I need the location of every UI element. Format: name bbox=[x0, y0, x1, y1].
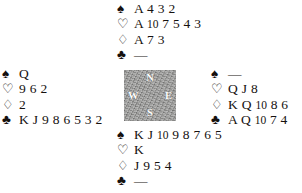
hand-west-clubs-cards: K J 9 8 6 5 3 2 bbox=[15, 112, 103, 127]
hand-south-hearts-cards: K bbox=[130, 142, 144, 157]
hand-west: ♠ Q ♡ 9 6 2 ♢ 2 ♣ K J 9 8 6 5 3 2 bbox=[2, 66, 103, 128]
hand-north-diamonds-cards: A 7 3 bbox=[130, 32, 165, 47]
compass-label-west: W bbox=[128, 90, 139, 101]
compass-label-east: E bbox=[165, 90, 172, 101]
hand-north: ♠ A 4 3 2 ♡ A 10 7 5 4 3 ♢ A 7 3 ♣ — bbox=[117, 1, 201, 63]
club-icon: ♣ bbox=[211, 112, 224, 127]
diamond-icon: ♢ bbox=[117, 32, 130, 47]
hand-east-diamonds-cards: K Q 10 8 6 bbox=[224, 97, 288, 113]
heart-icon: ♡ bbox=[117, 16, 130, 31]
hand-north-diamonds-row: ♢ A 7 3 bbox=[117, 32, 201, 47]
compass-box: N W E S bbox=[124, 70, 176, 121]
hand-west-hearts-row: ♡ 9 6 2 bbox=[2, 81, 103, 96]
hand-east-spades-cards: — bbox=[224, 66, 242, 81]
hand-east-clubs-row: ♣ A Q 10 7 4 bbox=[211, 112, 288, 127]
hand-south-diamonds-cards: J 9 5 4 bbox=[130, 158, 172, 173]
hand-north-spades-cards: A 4 3 2 bbox=[130, 1, 175, 16]
spade-icon: ♠ bbox=[117, 1, 130, 16]
hand-east: ♠ — ♡ Q J 8 ♢ K Q 10 8 6 ♣ A Q 10 7 4 bbox=[211, 66, 288, 128]
hand-south-diamonds-row: ♢ J 9 5 4 bbox=[117, 158, 222, 173]
spade-icon: ♠ bbox=[2, 66, 15, 81]
hand-south-clubs-row: ♣ — bbox=[117, 173, 222, 188]
club-icon: ♣ bbox=[117, 173, 130, 188]
hand-west-spades-cards: Q bbox=[15, 66, 29, 81]
hand-west-diamonds-row: ♢ 2 bbox=[2, 97, 103, 112]
hand-north-clubs-cards: — bbox=[130, 47, 148, 62]
hand-east-spades-row: ♠ — bbox=[211, 66, 288, 81]
club-icon: ♣ bbox=[117, 47, 130, 62]
hand-north-hearts-cards: A 10 7 5 4 3 bbox=[130, 16, 201, 32]
diamond-icon: ♢ bbox=[211, 97, 224, 112]
hand-south-spades-row: ♠ K J 10 9 8 7 6 5 bbox=[117, 127, 222, 142]
hand-east-clubs-cards: A Q 10 7 4 bbox=[224, 112, 288, 128]
heart-icon: ♡ bbox=[2, 81, 15, 96]
hand-south-spades-cards: K J 10 9 8 7 6 5 bbox=[130, 127, 222, 143]
hand-south: ♠ K J 10 9 8 7 6 5 ♡ K ♢ J 9 5 4 ♣ — bbox=[117, 127, 222, 189]
bridge-deal-diagram: ♠ A 4 3 2 ♡ A 10 7 5 4 3 ♢ A 7 3 ♣ — ♠ Q… bbox=[0, 0, 302, 193]
hand-north-clubs-row: ♣ — bbox=[117, 47, 201, 62]
compass-label-north: N bbox=[146, 73, 154, 84]
hand-west-spades-row: ♠ Q bbox=[2, 66, 103, 81]
spade-icon: ♠ bbox=[117, 127, 130, 142]
hand-north-spades-row: ♠ A 4 3 2 bbox=[117, 1, 201, 16]
hand-west-clubs-row: ♣ K J 9 8 6 5 3 2 bbox=[2, 112, 103, 127]
compass-label-south: S bbox=[147, 108, 153, 119]
hand-north-hearts-row: ♡ A 10 7 5 4 3 bbox=[117, 16, 201, 31]
hand-east-hearts-cards: Q J 8 bbox=[224, 81, 258, 96]
hand-west-diamonds-cards: 2 bbox=[15, 97, 26, 112]
heart-icon: ♡ bbox=[211, 81, 224, 96]
hand-west-hearts-cards: 9 6 2 bbox=[15, 81, 48, 96]
hand-south-hearts-row: ♡ K bbox=[117, 142, 222, 157]
diamond-icon: ♢ bbox=[2, 97, 15, 112]
hand-east-hearts-row: ♡ Q J 8 bbox=[211, 81, 288, 96]
heart-icon: ♡ bbox=[117, 142, 130, 157]
diamond-icon: ♢ bbox=[117, 158, 130, 173]
club-icon: ♣ bbox=[2, 112, 15, 127]
hand-south-clubs-cards: — bbox=[130, 173, 148, 188]
hand-east-diamonds-row: ♢ K Q 10 8 6 bbox=[211, 97, 288, 112]
spade-icon: ♠ bbox=[211, 66, 224, 81]
